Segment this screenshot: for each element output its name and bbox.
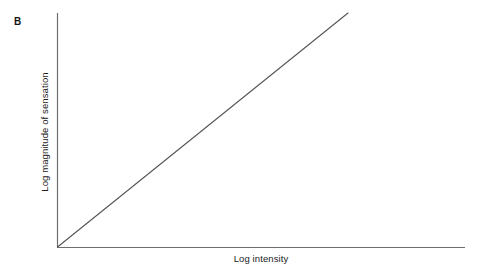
y-axis-title: Log magnitude of sensation [39, 72, 50, 191]
plot-area [0, 0, 479, 275]
x-axis-title: Log intensity [234, 253, 289, 264]
data-line-power-function [58, 13, 349, 247]
figure-panel-b: B Log magnitude of sensation Log intensi… [0, 0, 479, 275]
